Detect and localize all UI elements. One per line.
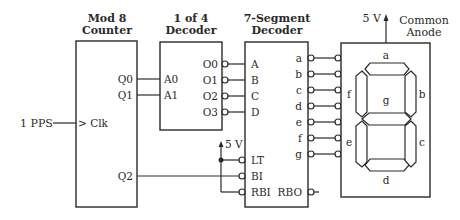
segment-label-g: g [383, 94, 390, 106]
counter-pin-clk: > Clk [78, 117, 109, 129]
segdecoder-pin-b-in: B [251, 74, 259, 86]
segdecoder-out-c: c [296, 84, 302, 96]
segdecoder-pin-d-in: D [251, 106, 259, 118]
segment-label-b: b [419, 88, 426, 100]
arrow-up-icon [384, 14, 389, 21]
circuit-diagram: Mod 8 Counter Q0 Q1 > Clk Q2 1 PPS 1 of … [0, 0, 460, 220]
segment-a [365, 63, 409, 75]
segdecoder-title-line2: Decoder [251, 24, 302, 37]
segment-label-d: d [383, 174, 390, 186]
counter-pin-q1: Q1 [118, 89, 133, 101]
segment-d [365, 159, 409, 171]
clock-input-label: 1 PPS [20, 117, 53, 130]
segdecoder-out-g: g [295, 148, 302, 160]
decoder4-pin-o3: O3 [203, 106, 218, 118]
segdecoder-pin-rbo: RBO [278, 186, 303, 198]
decoder4-pin-o0: O0 [203, 58, 218, 70]
inversion-bubble-icon [239, 173, 245, 179]
counter-pin-q2: Q2 [118, 170, 133, 182]
segdecoder-pin-rbi: RBI [251, 186, 271, 198]
counter-pin-q0: Q0 [118, 73, 133, 85]
segdecoder-out-e: e [296, 116, 302, 128]
arrow-up-icon [219, 141, 224, 147]
five-volt-rail: 5 V [219, 138, 244, 192]
decoder4-pin-o1: O1 [203, 74, 218, 86]
decoder4-pin-o2: O2 [203, 90, 218, 102]
segment-g [362, 113, 411, 125]
rail-supply-label: 5 V [225, 138, 243, 150]
segment-f [356, 71, 367, 117]
seven-segment-display: 5 V Common Anode a b c d e f g [341, 12, 449, 197]
segment-label-c: c [419, 136, 425, 148]
segdecoder-pin-c-in: C [251, 90, 259, 102]
segdecoder-out-b: b [295, 68, 302, 80]
segment-c [405, 121, 416, 167]
segment-e [356, 121, 367, 167]
decoder4-title-line2: Decoder [165, 24, 216, 37]
segdecoder-out-a: a [296, 52, 302, 64]
counter-title-line2: Counter [82, 24, 132, 37]
inversion-bubble-icon [239, 189, 245, 195]
segdecoder-pin-a-in: A [250, 58, 259, 70]
common-anode-label-line2: Anode [405, 26, 441, 39]
segdecoder-out-d: d [295, 100, 302, 112]
inversion-bubble-icon [222, 77, 228, 83]
inversion-bubble-icon [222, 109, 228, 115]
segment-b [405, 71, 416, 117]
seven-segment-decoder-block: 7-Segment Decoder A B C D a b c d e f g … [244, 12, 311, 207]
segment-label-e: e [346, 136, 352, 148]
segdecoder-pin-bi: BI [251, 170, 263, 182]
segdecoder-pin-lt: LT [251, 154, 264, 166]
decoder4-pin-a0: A0 [163, 73, 178, 85]
one-of-four-decoder-block: 1 of 4 Decoder A0 A1 O0 O1 O2 O3 [160, 12, 222, 130]
segment-output-wires [308, 55, 341, 157]
inversion-bubble-icon [239, 157, 245, 163]
inversion-bubble-icon [222, 93, 228, 99]
mod8-counter-block: Mod 8 Counter Q0 Q1 > Clk Q2 [76, 12, 137, 207]
decoder4-to-segdecoder-wires [222, 61, 245, 115]
decoder4-pin-a1: A1 [163, 89, 178, 101]
inversion-bubble-icon [222, 61, 228, 67]
display-supply-label: 5 V [363, 12, 382, 25]
segment-label-a: a [383, 49, 389, 61]
inversion-bubble-icon [308, 189, 314, 195]
